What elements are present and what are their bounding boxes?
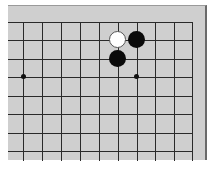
star-point [134, 74, 139, 79]
go-board[interactable] [8, 5, 207, 160]
board-grid [8, 6, 207, 161]
black-stone[interactable] [109, 50, 126, 67]
white-stone[interactable] [109, 31, 126, 48]
star-point [21, 74, 26, 79]
black-stone[interactable] [128, 31, 145, 48]
